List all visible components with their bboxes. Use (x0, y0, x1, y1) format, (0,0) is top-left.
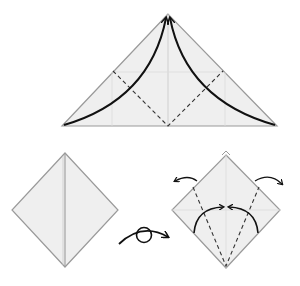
paper-triangle (62, 14, 277, 126)
origami-diagram (0, 0, 300, 286)
step-2-diamond (12, 153, 118, 267)
step-1-triangle (62, 14, 277, 126)
unfold-arrow-left-icon (175, 178, 197, 182)
unfold-arrow-right-icon (255, 177, 282, 184)
turn-over-circle (137, 228, 152, 243)
step-4-diamond (172, 151, 282, 268)
turn-over-icon (119, 228, 168, 245)
